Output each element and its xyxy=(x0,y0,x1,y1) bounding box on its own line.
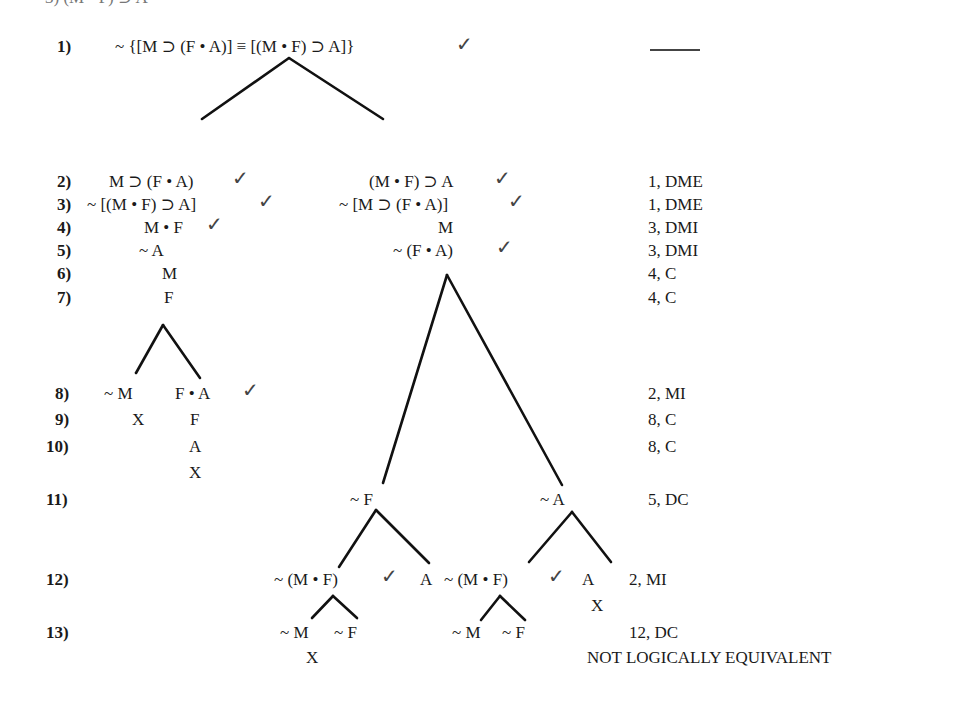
formula-line-12-c: ~ (M • F) xyxy=(444,570,508,590)
formula-line-3-right: ~ [M ⊃ (F • A)] xyxy=(339,195,448,215)
check-mark-icon: ✓ xyxy=(381,566,398,586)
formula-line-10: A xyxy=(189,437,201,457)
justification-line-10: 8, C xyxy=(648,437,676,457)
justification-line-2: 1, DME xyxy=(648,172,703,192)
formula-line-4-right: M xyxy=(438,218,453,238)
check-mark-icon: ✓ xyxy=(232,168,249,188)
formula-line-12-a: ~ (M • F) xyxy=(274,570,338,590)
justification-line-13: 12, DC xyxy=(629,623,678,643)
line-number-3: 3) xyxy=(57,195,71,215)
justification-line-4: 3, DMI xyxy=(648,218,698,238)
formula-line-8-b: F • A xyxy=(175,384,210,404)
justification-dash xyxy=(650,49,700,51)
line-number-11: 11) xyxy=(46,490,68,510)
formula-line-11-a: ~ F xyxy=(350,490,373,510)
justification-line-5: 3, DMI xyxy=(648,241,698,261)
line-number-6: 6) xyxy=(57,264,71,284)
tree-branches xyxy=(0,0,964,709)
formula-line-9: F xyxy=(190,410,199,430)
closed-branch-x: X xyxy=(591,596,603,616)
line-number-12: 12) xyxy=(46,570,69,590)
formula-line-13-d: ~ F xyxy=(502,623,525,643)
check-mark-icon: ✓ xyxy=(258,191,275,211)
line-number-1: 1) xyxy=(57,37,71,57)
closed-branch-x: X xyxy=(306,648,318,668)
line-number-7: 7) xyxy=(57,288,71,308)
line-number-10: 10) xyxy=(46,437,69,457)
formula-line-5-right: ~ (F • A) xyxy=(393,241,453,261)
justification-line-9: 8, C xyxy=(648,410,676,430)
check-mark-icon: ✓ xyxy=(496,237,513,257)
formula-line-12-d: A xyxy=(582,570,594,590)
check-mark-icon: ✓ xyxy=(242,380,259,400)
justification-line-6: 4, C xyxy=(648,264,676,284)
line-number-4: 4) xyxy=(57,218,71,238)
line-number-8: 8) xyxy=(55,384,69,404)
formula-line-8-a: ~ M xyxy=(104,384,133,404)
formula-line-2-left: M ⊃ (F • A) xyxy=(109,172,193,192)
justification-line-7: 4, C xyxy=(648,288,676,308)
formula-line-11-b: ~ A xyxy=(540,490,565,510)
check-mark-icon: ✓ xyxy=(206,214,223,234)
justification-line-8: 2, MI xyxy=(648,384,686,404)
formula-line-6: M xyxy=(162,264,177,284)
formula-line-5-left: ~ A xyxy=(139,241,164,261)
line-number-13: 13) xyxy=(46,623,69,643)
check-mark-icon: ✓ xyxy=(548,566,565,586)
formula-line-7: F xyxy=(164,288,173,308)
conclusion: NOT LOGICALLY EQUIVALENT xyxy=(587,648,831,668)
line-number-5: 5) xyxy=(57,241,71,261)
formula-line-1: ~ {[M ⊃ (F • A)] ≡ [(M • F) ⊃ A]} xyxy=(115,37,354,57)
check-mark-icon: ✓ xyxy=(508,191,525,211)
formula-line-3-left: ~ [(M • F) ⊃ A] xyxy=(87,195,196,215)
formula-line-13-b: ~ F xyxy=(334,623,357,643)
check-mark-icon: ✓ xyxy=(456,34,473,54)
closed-branch-x: X xyxy=(132,410,144,430)
justification-line-3: 1, DME xyxy=(648,195,703,215)
line-number-2: 2) xyxy=(57,172,71,192)
closed-branch-x: X xyxy=(189,463,201,483)
formula-line-4-left: M • F xyxy=(144,218,183,238)
formula-line-12-b: A xyxy=(420,570,432,590)
formula-line-13-a: ~ M xyxy=(280,623,309,643)
formula-line-13-c: ~ M xyxy=(452,623,481,643)
line-number-9: 9) xyxy=(55,410,69,430)
check-mark-icon: ✓ xyxy=(494,168,511,188)
justification-line-12: 2, MI xyxy=(629,570,667,590)
justification-line-11: 5, DC xyxy=(648,490,689,510)
formula-line-2-right: (M • F) ⊃ A xyxy=(369,172,453,192)
